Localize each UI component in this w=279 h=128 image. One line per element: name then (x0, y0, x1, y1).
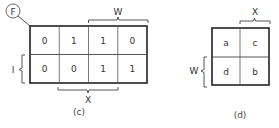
top-brace-label: W (114, 7, 123, 17)
bottom-brace-label: X (85, 95, 91, 105)
top-brace (240, 18, 270, 24)
kmap-c-cell: 0 (71, 64, 77, 74)
top-brace (89, 17, 149, 23)
kmap-c-cell: 0 (130, 36, 136, 46)
kmap-d-cell: d (223, 67, 229, 77)
kmap-c-cell: 1 (100, 64, 106, 74)
kmap-d-border (212, 28, 269, 85)
function-label-leader (18, 16, 30, 26)
kmap-c-cell: 1 (71, 36, 77, 46)
caption-c: (c) (73, 107, 85, 117)
kmap-c-cell: 1 (130, 64, 136, 74)
figure-c: F 0 1 1 0 0 0 1 1 W I X (c) (6, 4, 148, 117)
kmap-c-cell: 1 (100, 36, 106, 46)
top-brace-label: X (252, 7, 258, 17)
left-brace-label: I (12, 65, 15, 75)
figure-d: a c d b X W (d) (190, 7, 270, 120)
karnaugh-maps-figure: F 0 1 1 0 0 0 1 1 W I X (c) a c d (0, 0, 279, 128)
caption-d: (d) (234, 110, 247, 120)
kmap-c-cell: 0 (42, 36, 48, 46)
bottom-brace (58, 87, 118, 93)
kmap-c-cell: 0 (42, 64, 48, 74)
kmap-d-cell: c (253, 38, 258, 48)
left-brace-label: W (190, 66, 199, 76)
kmap-d-cell: a (223, 38, 229, 48)
function-label: F (10, 7, 15, 17)
kmap-d-cell: b (252, 67, 258, 77)
left-brace (19, 55, 25, 83)
left-brace (201, 57, 207, 87)
